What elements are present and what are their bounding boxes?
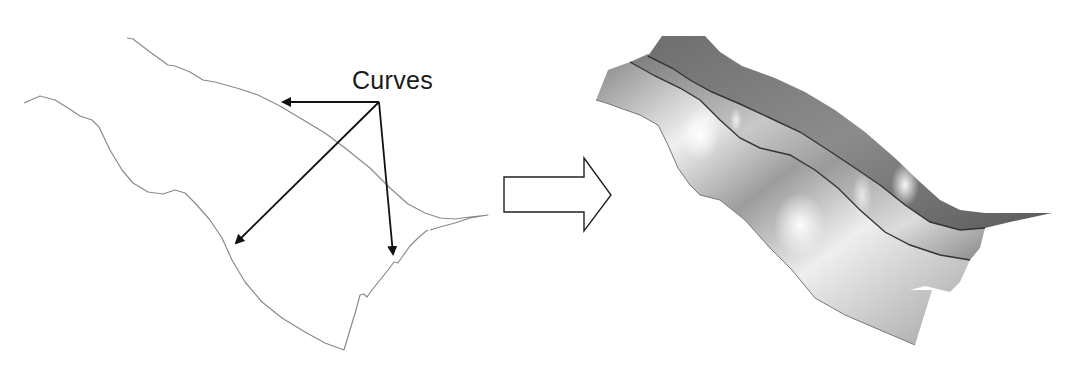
- curves-label: Curves: [352, 66, 433, 95]
- arrow-to-lower-curve-right: [379, 102, 393, 254]
- callout-arrows: [236, 102, 393, 254]
- lofted-surface: [596, 36, 1052, 345]
- upper-curve: [127, 38, 488, 230]
- diagram-canvas: Curves: [0, 0, 1072, 367]
- transition-arrow-icon: [504, 158, 611, 231]
- lower-curve: [24, 96, 428, 350]
